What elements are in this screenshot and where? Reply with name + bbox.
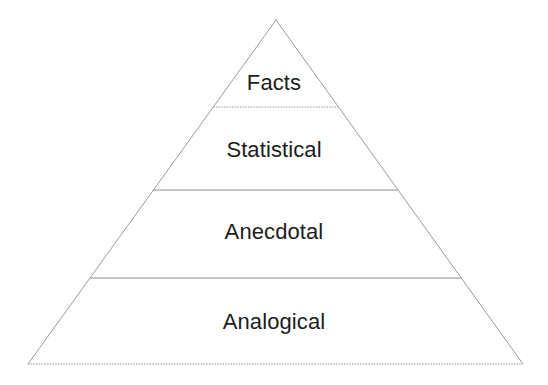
pyramid-diagram: Facts Statistical Anecdotal Analogical — [0, 0, 548, 385]
pyramid-tier-label-facts: Facts — [0, 72, 548, 94]
pyramid-tier-label-statistical: Statistical — [0, 139, 548, 161]
pyramid-tier-label-anecdotal: Anecdotal — [0, 221, 548, 243]
pyramid-tier-label-analogical: Analogical — [0, 311, 548, 333]
